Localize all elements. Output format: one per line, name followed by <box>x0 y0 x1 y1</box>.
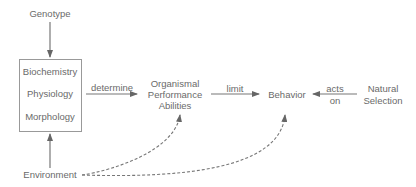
performance-node-line3: Abilities <box>142 100 208 111</box>
box-item-biochemistry: Biochemistry <box>19 66 81 77</box>
behavior-node: Behavior <box>262 89 312 100</box>
environment-to-performance-dashed-arrow <box>82 115 180 175</box>
acts-on-label-line1: acts <box>321 83 349 94</box>
performance-node-line2: Performance <box>142 89 208 100</box>
determine-label: determine <box>88 82 136 93</box>
genotype-node: Genotype <box>26 8 74 19</box>
box-item-morphology: Morphology <box>19 111 81 122</box>
environment-to-behavior-dashed-arrow <box>82 115 285 176</box>
environment-node: Environment <box>20 169 80 180</box>
limit-label: limit <box>220 83 250 94</box>
performance-node-line1: Organismal <box>142 78 208 89</box>
selection-node-line1: Natural <box>360 83 406 94</box>
selection-node-line2: Selection <box>360 95 406 106</box>
acts-on-label-line2: on <box>321 95 349 106</box>
box-item-physiology: Physiology <box>19 88 81 99</box>
